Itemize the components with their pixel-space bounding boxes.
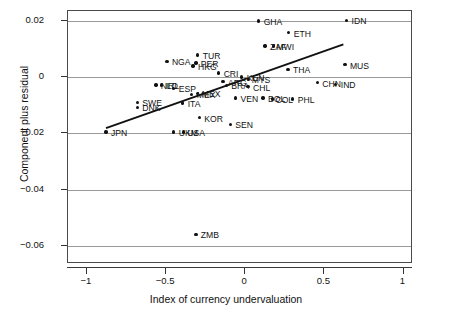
y-tick-label: −0.02: [0, 127, 44, 137]
y-tick-label: −0.06: [0, 240, 44, 250]
data-point-label: PHL: [298, 96, 315, 105]
data-point: [229, 123, 232, 126]
y-tick-label: 0: [0, 71, 44, 81]
data-point: [191, 64, 194, 67]
plot-area: GHAIDNETHZAFMWITURNGAPERHKGMUSTHACRIKENM…: [67, 10, 412, 263]
data-point: [194, 233, 197, 236]
data-point-label: KOR: [204, 115, 223, 124]
y-tick-label: 0.02: [0, 15, 44, 25]
y-tick: [61, 189, 67, 190]
x-tick: [403, 268, 404, 274]
data-point-label: ETH: [294, 30, 311, 39]
gridline-y: [68, 246, 411, 247]
data-point: [234, 96, 237, 99]
data-point-label: DNK: [142, 104, 160, 113]
data-point-label: ZMB: [201, 231, 219, 240]
data-point: [165, 60, 168, 63]
data-point: [154, 83, 157, 86]
data-point-label: MWI: [276, 43, 294, 52]
x-axis-line: [67, 267, 412, 268]
data-point: [272, 44, 275, 47]
data-point-label: MUS: [350, 62, 369, 71]
data-point-label: JPN: [111, 129, 127, 138]
data-point-label: ITA: [188, 100, 201, 109]
x-tick-label: −1: [66, 276, 106, 286]
data-point-label: MEX: [202, 90, 221, 99]
y-tick: [61, 245, 67, 246]
x-axis-title: Index of currency undervaluation: [0, 293, 452, 305]
x-tick-label: 0.5: [303, 276, 343, 286]
data-point-label: IDN: [352, 17, 367, 26]
y-tick: [61, 132, 67, 133]
y-tick-label: −0.04: [0, 184, 44, 194]
data-point-label: THA: [293, 66, 310, 75]
data-point: [261, 96, 264, 99]
data-point-label: CHN: [322, 80, 341, 89]
data-point-label: CHL: [253, 84, 270, 93]
x-tick: [323, 268, 324, 274]
data-point-label: GHA: [264, 18, 283, 27]
data-point: [257, 19, 260, 22]
data-point: [286, 68, 289, 71]
data-point-label: SEN: [235, 121, 253, 130]
data-point: [182, 130, 185, 133]
data-point: [263, 44, 266, 47]
data-point: [271, 97, 274, 100]
data-point-label: USA: [187, 129, 205, 138]
data-point: [136, 106, 139, 109]
y-tick: [61, 20, 67, 21]
data-point: [136, 101, 139, 104]
chart-root: GHAIDNETHZAFMWITURNGAPERHKGMUSTHACRIKENM…: [0, 0, 452, 319]
data-point-label: IND: [341, 81, 356, 90]
x-tick-label: 0: [224, 276, 264, 286]
x-tick-label: 1: [383, 276, 423, 286]
y-tick: [61, 76, 67, 77]
x-tick: [244, 268, 245, 274]
data-point-label: VEN: [240, 95, 258, 104]
x-tick-label: −0.5: [145, 276, 185, 286]
gridline-y: [68, 190, 411, 191]
data-point-label: ESP: [179, 85, 196, 94]
data-point-label: HKG: [198, 63, 217, 72]
x-tick: [165, 268, 166, 274]
x-tick: [86, 268, 87, 274]
data-point-label: NGA: [172, 58, 191, 67]
y-axis-title: Component plus residual: [18, 4, 30, 244]
data-point: [104, 130, 107, 133]
data-point: [221, 80, 224, 83]
